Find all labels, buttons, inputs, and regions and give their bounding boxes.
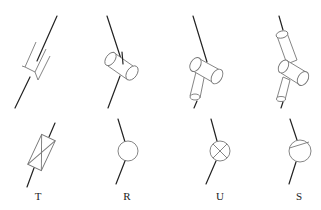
prismatic-box-symbol-icon <box>27 123 55 187</box>
spherical-three-cylinder-3d-icon <box>275 16 311 108</box>
label-S: S <box>296 190 302 202</box>
telescopic-joint-3d-icon <box>15 16 57 108</box>
label-U: U <box>216 190 224 202</box>
label-R: R <box>123 190 131 202</box>
revolute-cylinder-3d-icon <box>103 16 141 108</box>
circle-symbol-icon <box>116 119 138 184</box>
universal-two-cylinder-3d-icon <box>187 16 225 108</box>
circle-chord-symbol-icon <box>289 119 311 184</box>
label-T: T <box>35 190 42 202</box>
circle-cross-symbol-icon <box>206 119 230 184</box>
joint-diagram: T R U S <box>0 0 321 210</box>
